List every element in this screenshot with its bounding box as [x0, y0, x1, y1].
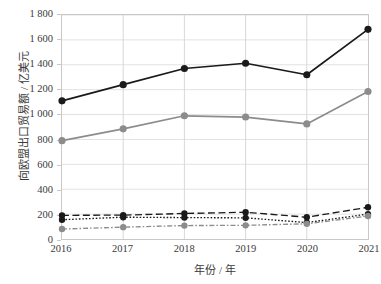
data-point [181, 214, 187, 220]
data-point [304, 221, 310, 227]
x-axis: 201620172018201920202021 [61, 243, 369, 259]
data-point [181, 222, 187, 228]
x-tick-label: 2019 [235, 243, 256, 255]
data-point [120, 214, 126, 220]
y-tick-label: 400 [37, 185, 53, 196]
data-point [303, 71, 310, 78]
y-tick-label: 1 400 [29, 59, 53, 70]
series-line-3 [62, 207, 368, 217]
data-point [59, 217, 65, 223]
y-tick-label: 600 [37, 160, 53, 171]
y-tick-mark [57, 240, 61, 241]
plot-area [61, 14, 369, 240]
data-point [303, 120, 310, 127]
chart-container: 02004006008001 0001 2001 4001 6001 800 向… [0, 0, 381, 284]
series-layer [62, 15, 368, 239]
x-tick-label: 2020 [297, 243, 318, 255]
data-point [364, 88, 371, 95]
data-point [242, 209, 248, 215]
data-point [242, 113, 249, 120]
data-point [58, 137, 65, 144]
x-tick-label: 2021 [359, 243, 380, 255]
x-tick-label: 2016 [51, 243, 72, 255]
y-tick-label: 800 [37, 135, 53, 146]
data-point [181, 65, 188, 72]
y-tick-label: 1 000 [29, 109, 53, 120]
y-tick-label: 1 800 [29, 9, 53, 20]
data-point [242, 215, 248, 221]
series-line-1 [62, 29, 368, 101]
data-point [120, 125, 127, 132]
data-point [59, 226, 65, 232]
data-point [120, 81, 127, 88]
y-tick-label: 200 [37, 210, 53, 221]
data-point [181, 112, 188, 119]
data-point [58, 97, 65, 104]
data-point [120, 224, 126, 230]
data-point [364, 26, 371, 33]
y-tick-label: 1 600 [29, 34, 53, 45]
data-point [365, 213, 371, 219]
y-tick-label: 1 200 [29, 84, 53, 95]
x-axis-title: 年份 / 年 [61, 261, 369, 277]
data-point [365, 204, 371, 210]
x-tick-label: 2018 [174, 243, 195, 255]
data-point [242, 222, 248, 228]
data-point [242, 60, 249, 67]
series-line-2 [62, 92, 368, 141]
y-axis-title: 向欧盟出口贸易额 / 亿美元 [15, 21, 31, 211]
x-tick-label: 2017 [112, 243, 133, 255]
